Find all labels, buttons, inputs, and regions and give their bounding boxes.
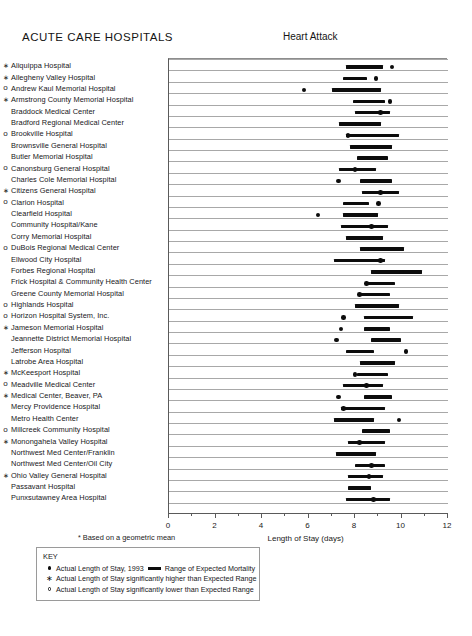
gridline [169,343,448,344]
actual-stay-point [369,463,374,468]
expected-range-bar [341,225,388,228]
hospital-name-label: Metro Health Center [11,414,79,423]
expected-range-bar [346,134,399,137]
hospital-name-label: Mercy Providence Hospital [11,402,100,411]
actual-stay-point [378,110,383,115]
hospital-name-label: Corry Memorial Hospital [11,232,91,241]
hospital-name-label: Butler Memorial Hospital [11,152,93,161]
hospital-name-label: Jefferson Hospital [11,346,71,355]
legend-title: KEY [43,552,253,561]
actual-stay-point [357,440,362,445]
hospital-name-label: Allegheny Valley Hospital [11,73,95,82]
hospital-row: ∗Allegheny Valley Hospital [0,71,168,82]
hospital-row: Ellwood City Hospital [0,253,168,264]
expected-range-bar [360,293,390,296]
hospital-name-label: Millcreek Community Hospital [11,425,110,434]
hospital-name-label: Frick Hospital & Community Health Center [11,277,152,286]
expected-range-bar [346,236,383,239]
hospital-row: ∗Aliquippa Hospital [0,60,168,71]
hospital-name-label: Citizens General Hospital [11,186,96,195]
significant-higher-icon: ∗ [0,324,11,331]
legend-text: Actual Length of Stay significantly high… [56,574,257,583]
hospital-name-label: Latrobe Area Hospital [11,357,83,366]
hospital-name-label: Jameson Memorial Hospital [11,323,103,332]
expected-range-bar [360,361,395,364]
actual-stay-point [336,179,341,184]
actual-stay-point [353,167,358,172]
hospital-row: oDuBois Regional Medical Center [0,242,168,253]
hospital-row: ∗Monongahela Valley Hospital [0,435,168,446]
hospital-row: Jeannette District Memorial Hospital [0,333,168,344]
hospital-name-label: Bradford Regional Medical Center [11,118,124,127]
hospital-name-label: Passavant Hospital [11,482,75,491]
actual-stay-point [357,292,362,297]
expected-range-bar [346,350,374,353]
x-tick-major [261,513,262,518]
hospital-name-label: Horizon Hospital System, Inc. [11,311,109,320]
legend-text: Actual Length of Stay, 1993Range of Expe… [56,564,255,573]
hospital-row: ∗Citizens General Hospital [0,185,168,196]
gridline [169,70,448,71]
expected-range-bar [346,65,383,68]
hospital-row: Passavant Hospital [0,481,168,492]
actual-stay-point [334,338,339,343]
filled-circle-icon [43,566,56,570]
actual-stay-point [341,315,346,320]
gridline [169,366,448,367]
significant-lower-icon: o [0,130,11,138]
gridline [169,469,448,470]
hospital-row: Frick Hospital & Community Health Center [0,276,168,287]
actual-stay-point [404,349,409,354]
hospital-row: Forbes Regional Hospital [0,265,168,276]
x-tick-minor [331,513,332,516]
gridline [169,332,448,333]
expected-range-bar [334,418,374,421]
hospital-name-label: Andrew Kaul Memorial Hospital [11,84,116,93]
legend-row: ∗Actual Length of Stay significantly hig… [43,574,253,585]
x-tick-major [401,513,402,518]
gridline [169,309,448,310]
x-tick-label: 8 [352,521,356,530]
expected-range-bar [348,475,383,478]
open-circle-icon [43,587,56,591]
x-tick-minor [238,513,239,516]
hospital-row: Brownsville General Hospital [0,140,168,151]
hospital-row: Corry Memorial Hospital [0,231,168,242]
gridline [169,400,448,401]
gridline [169,446,448,447]
hospital-name-label: Jeannette District Memorial Hospital [11,334,131,343]
hospital-row: Clearfield Hospital [0,208,168,219]
significant-lower-icon: o [0,312,11,320]
significant-lower-icon: o [0,301,11,309]
actual-stay-point [376,201,381,206]
expected-range-bar [353,100,386,103]
filled-circle-icon-glyph [48,566,52,570]
hospital-name-list: ∗Aliquippa Hospital∗Allegheny Valley Hos… [0,58,168,513]
gridline [169,389,448,390]
actual-stay-point [316,213,321,218]
expected-range-bar [364,395,392,398]
expected-range-bar [343,384,383,387]
actual-stay-point [388,99,393,104]
gridline [169,434,448,435]
actual-stay-point [374,76,379,81]
range-segment-icon [148,567,161,570]
legend-rows: Actual Length of Stay, 1993Range of Expe… [43,563,253,595]
hospital-row: Butler Memorial Hospital [0,151,168,162]
x-tick-major [308,513,309,518]
hospital-row: ∗Medical Center, Beaver, PA [0,390,168,401]
hospital-row: ∗Ohio Valley General Hospital [0,470,168,481]
hospital-row: oMillcreek Community Hospital [0,424,168,435]
gridline [169,287,448,288]
x-tick-major [168,513,169,518]
x-tick-label: 2 [212,521,216,530]
page-title: ACUTE CARE HOSPITALS [22,31,173,43]
footnote-text: Based on a geometric mean [83,533,175,542]
hospital-row: oMeadville Medical Center [0,379,168,390]
legend-row: Actual Length of Stay significantly lowe… [43,584,253,595]
hospital-row: Latrobe Area Hospital [0,356,168,367]
significant-higher-icon: ∗ [0,392,11,399]
hospital-row: Punxsutawney Area Hospital [0,492,168,503]
hospital-name-label: Medical Center, Beaver, PA [11,391,102,400]
legend-row: Actual Length of Stay, 1993Range of Expe… [43,563,253,574]
